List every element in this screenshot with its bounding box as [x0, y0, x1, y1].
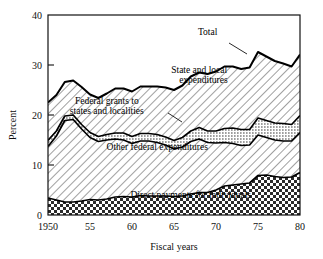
x-axis-label: Fiscal years	[150, 241, 198, 252]
y-tick-label: 20	[32, 110, 42, 121]
x-tick-label: 60	[127, 221, 137, 232]
series-annotation: State and local	[171, 65, 227, 75]
x-tick-label: 70	[211, 221, 221, 232]
area-chart: 010203040 1950556065707580 TotalState an…	[0, 0, 323, 259]
x-tick-label: 65	[169, 221, 179, 232]
x-tick-label: 55	[85, 221, 95, 232]
y-tick-label: 30	[32, 60, 42, 71]
y-tick-label: 0	[37, 210, 42, 221]
series-annotation: states and localities	[70, 106, 144, 116]
series-annotation: expenditures	[179, 75, 228, 85]
series-annotation: Direct payments for individuals	[131, 190, 252, 200]
x-tick-label: 75	[253, 221, 263, 232]
series-annotation: Other federal expenditures	[107, 142, 209, 152]
y-tick-label: 40	[32, 10, 42, 21]
x-tick-label: 80	[295, 221, 305, 232]
x-tick-label: 1950	[38, 221, 58, 232]
y-axis-label: Percent	[7, 110, 18, 140]
chart-container: 010203040 1950556065707580 TotalState an…	[0, 0, 323, 259]
series-annotation: Federal grants to	[75, 96, 139, 106]
y-tick-label: 10	[32, 160, 42, 171]
series-annotation: Total	[198, 27, 218, 37]
